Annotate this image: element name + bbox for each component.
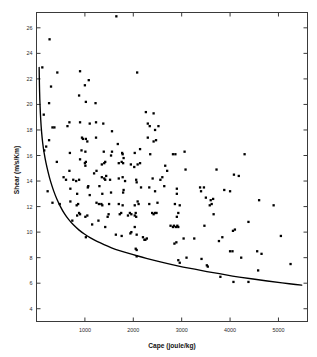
data-point — [121, 176, 123, 178]
data-point — [156, 202, 158, 204]
x-tick-label: 2000 — [127, 327, 139, 333]
data-point — [176, 188, 178, 190]
data-point — [134, 226, 136, 228]
data-point — [111, 151, 113, 153]
data-point — [179, 204, 181, 206]
data-point — [51, 202, 53, 204]
data-point — [71, 219, 73, 221]
data-point — [177, 259, 179, 261]
data-point — [107, 213, 109, 215]
data-point — [45, 145, 47, 147]
data-point — [48, 38, 50, 40]
data-point — [110, 154, 112, 156]
data-point — [86, 214, 88, 216]
data-point — [218, 240, 220, 242]
data-point — [115, 234, 117, 236]
data-point — [104, 226, 106, 228]
data-point — [139, 148, 141, 150]
data-point — [109, 179, 111, 181]
data-point — [66, 125, 68, 127]
data-point — [56, 161, 58, 163]
data-point — [78, 179, 80, 181]
data-point — [122, 162, 124, 164]
data-point — [85, 101, 87, 103]
y-tick-label: 16 — [27, 153, 33, 159]
data-point — [43, 114, 45, 116]
data-point — [106, 216, 108, 218]
data-point — [77, 203, 79, 205]
data-point — [53, 126, 55, 128]
data-point — [68, 121, 70, 123]
data-point — [172, 153, 174, 155]
data-point — [75, 180, 77, 182]
data-point — [258, 199, 260, 201]
data-point — [97, 219, 99, 221]
data-point — [176, 193, 178, 195]
chart-background — [0, 0, 317, 357]
data-point — [174, 153, 176, 155]
y-tick-label: 26 — [27, 25, 33, 31]
data-point — [155, 139, 157, 141]
data-point — [240, 257, 242, 259]
data-point — [95, 121, 97, 123]
data-point — [76, 193, 78, 195]
data-point — [65, 179, 67, 181]
data-point — [155, 212, 157, 214]
data-point — [130, 163, 132, 165]
data-point — [147, 136, 149, 138]
data-point — [166, 170, 168, 172]
data-point — [118, 162, 120, 164]
data-point — [247, 281, 249, 283]
data-point — [102, 122, 104, 124]
data-point — [101, 204, 103, 206]
data-point — [176, 216, 178, 218]
data-point — [185, 257, 187, 259]
data-point — [211, 203, 213, 205]
y-tick-label: 6 — [30, 280, 33, 286]
data-point — [121, 235, 123, 237]
data-point — [151, 177, 153, 179]
data-point — [152, 112, 154, 114]
data-point — [108, 203, 110, 205]
data-point — [104, 161, 106, 163]
data-point — [142, 236, 144, 238]
data-point — [229, 250, 231, 252]
data-point — [280, 235, 282, 237]
data-point — [80, 149, 82, 151]
data-point — [223, 189, 225, 191]
data-point — [177, 212, 179, 214]
data-point — [136, 234, 138, 236]
data-point — [134, 152, 136, 154]
data-point — [88, 79, 90, 81]
data-point — [76, 214, 78, 216]
data-point — [215, 168, 217, 170]
data-point — [148, 186, 150, 188]
data-point — [79, 70, 81, 72]
data-point — [82, 138, 84, 140]
data-point — [140, 186, 142, 188]
data-point — [146, 237, 148, 239]
data-point — [133, 166, 135, 168]
data-point — [257, 269, 259, 271]
data-point — [154, 190, 156, 192]
y-tick-label: 12 — [27, 204, 33, 210]
data-point — [101, 176, 103, 178]
data-point — [148, 203, 150, 205]
data-point — [48, 139, 50, 141]
data-point — [247, 221, 249, 223]
data-point — [118, 203, 120, 205]
data-point — [98, 203, 100, 205]
y-axis-title: Shear (m/s/Km) — [13, 146, 21, 194]
data-point — [105, 175, 107, 177]
data-point — [121, 153, 123, 155]
data-point — [260, 253, 262, 255]
data-point — [69, 152, 71, 154]
data-point — [136, 163, 138, 165]
data-point — [89, 122, 91, 124]
data-point — [136, 249, 138, 251]
data-point — [69, 200, 71, 202]
data-point — [136, 200, 138, 202]
data-point — [46, 190, 48, 192]
x-tick-label: 1000 — [79, 327, 91, 333]
y-tick-label: 10 — [27, 229, 33, 235]
